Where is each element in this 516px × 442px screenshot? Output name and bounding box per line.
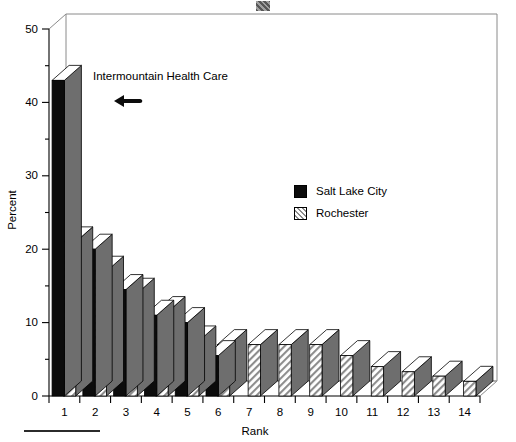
y-axis-title: Percent [6,189,18,229]
y-axis-tick-labels: 50 40 30 20 10 0 [25,23,38,402]
bar-pair-rank-1 [52,65,93,396]
bar-pair-rank-9 [310,330,339,396]
bar-salt-lake-city-2-side [95,234,112,396]
bar-salt-lake-city-3-side [126,275,143,396]
x-tick-label: 11 [366,406,378,418]
x-tick-label: 8 [277,406,283,418]
x-axis: 1234567891011121314 [49,396,480,418]
bar-salt-lake-city-4-side [157,300,174,396]
bar-group [52,65,493,396]
legend-label: Salt Lake City [316,185,387,198]
left-arrow-icon [114,95,142,107]
annotation-group: Intermountain Health Care [93,70,228,107]
y-tick-label: 20 [25,243,38,255]
x-tick-label: 12 [397,406,410,418]
bar-rochester-8-front [279,345,291,396]
x-tick-label: 4 [154,406,161,418]
bar-pair-rank-11 [371,352,400,396]
bar-pair-rank-10 [340,341,369,396]
bar-pair-rank-8 [279,330,308,396]
x-tick-label: 1 [61,406,67,418]
x-tick-label: 10 [335,406,348,418]
y-tick-label: 0 [32,390,38,402]
y-tick-label: 50 [25,23,38,35]
y-axis-ticks [42,29,49,396]
chart-page: 50 40 30 20 10 0 Percent 123456789101112… [0,0,516,442]
x-tick-label: 6 [215,406,221,418]
x-tick-label: 14 [458,406,471,418]
bar-pair-rank-13 [433,361,462,396]
bar-chart: 50 40 30 20 10 0 Percent 123456789101112… [0,0,516,442]
bar-rochester-14-front [464,381,476,396]
footer-rule [24,430,100,432]
bar-pair-rank-12 [402,357,431,396]
bar-pair-rank-7 [248,330,277,396]
bar-rochester-9-front [310,345,322,396]
legend-swatch-rochester [294,207,307,220]
legend-item-rochester: Rochester [294,204,387,222]
annotation-label: Intermountain Health Care [93,70,228,82]
bar-rochester-7-front [248,345,260,396]
legend-item-salt-lake-city: Salt Lake City [294,182,387,200]
legend-label: Rochester [316,207,368,220]
bar-rochester-11-front [371,367,383,396]
x-tick-label: 2 [92,406,98,418]
x-tick-label: 7 [246,406,252,418]
y-tick-label: 40 [25,96,38,108]
y-tick-label: 30 [25,169,38,181]
x-tick-label: 9 [307,406,313,418]
x-axis-title: Rank [242,425,269,437]
bar-salt-lake-city-1-front [52,80,64,396]
bar-salt-lake-city-1-side [64,65,81,396]
legend: Salt Lake City Rochester [294,182,387,226]
bar-rochester-13-front [433,376,445,396]
y-tick-label: 10 [25,316,38,328]
bar-rochester-10-front [340,356,352,396]
bar-pair-rank-14 [464,366,493,396]
legend-swatch-salt-lake-city [294,185,307,198]
x-tick-label: 13 [427,406,440,418]
x-tick-label: 3 [123,406,129,418]
bar-rochester-12-front [402,372,414,396]
x-tick-label: 5 [184,406,190,418]
